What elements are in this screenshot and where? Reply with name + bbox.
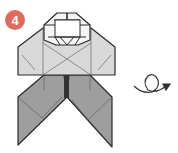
- turn-over-arrow-icon: [134, 75, 170, 93]
- right-leg: [67, 75, 112, 147]
- center-gap: [64, 75, 69, 98]
- left-leg: [18, 75, 67, 145]
- origami-figure: [0, 0, 178, 153]
